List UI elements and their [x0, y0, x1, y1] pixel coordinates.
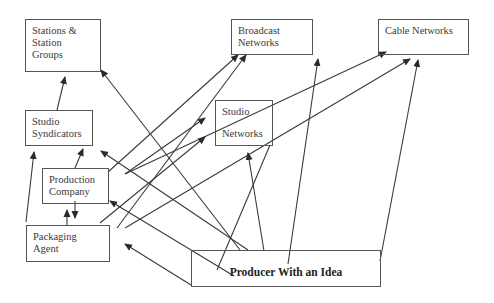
node-packaging-agent: Packaging Agent — [26, 225, 110, 262]
node-label-line: Networks — [238, 37, 306, 49]
node-studio-syndicators: Studio Syndicators — [25, 110, 93, 146]
arrow-packaging_agent-to-studio_syndicators — [26, 152, 34, 222]
node-label-line: Studio — [32, 116, 86, 128]
node-label-line: Producer With an Idea — [198, 266, 374, 278]
node-stations: Stations & Station Groups — [25, 19, 101, 72]
diagram-canvas: Stations & Station Groups Broadcast Netw… — [0, 0, 494, 303]
node-label-line: Syndicators — [32, 128, 86, 140]
arrow-producer-to-packaging_agent — [125, 244, 191, 285]
arrow-studio_syndicators-to-stations — [57, 77, 65, 110]
node-label-line: Broadcast — [238, 25, 306, 37]
node-cable-networks: Cable Networks — [378, 19, 469, 55]
arrow-producer-to-studio_networks — [248, 153, 264, 251]
node-label-line: Networks — [222, 123, 266, 145]
node-label-line: Stations & — [32, 25, 94, 37]
node-broadcast-networks: Broadcast Networks — [231, 19, 313, 55]
node-production-company: Production Company — [42, 168, 109, 204]
node-label-line: Studio — [222, 101, 266, 123]
node-label-line: Production — [49, 174, 102, 186]
node-producer-with-an-idea: Producer With an Idea — [191, 250, 381, 287]
node-studio-networks: Studio Networks — [215, 100, 273, 146]
node-label-line: Company — [49, 186, 102, 198]
arrow-producer-to-broadcast — [288, 59, 318, 264]
arrow-producer-to-cable — [380, 60, 418, 261]
arrow-production_company-to-studio_syndicators — [75, 149, 83, 168]
node-label-line: Cable Networks — [385, 25, 462, 37]
node-label-line: Station Groups — [32, 37, 94, 61]
node-label-line: Packaging Agent — [33, 231, 103, 255]
